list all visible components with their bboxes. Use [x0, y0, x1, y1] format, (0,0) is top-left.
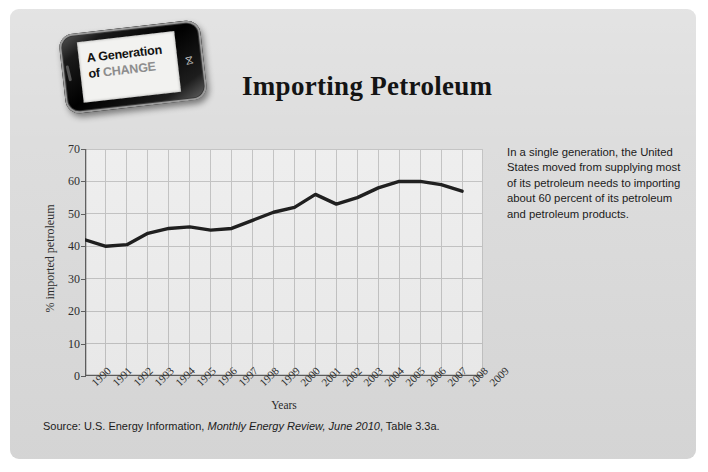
badge-line2-accent: CHANGE — [102, 59, 156, 79]
y-axis-tick-0: 0 — [38, 369, 80, 384]
x-axis-tick-2009: 2009 — [487, 364, 511, 388]
page-panel: A Generation of CHANGE ⧖ Importing Petro… — [10, 9, 696, 459]
y-axis-tick-60: 60 — [38, 174, 80, 189]
y-axis-tick-30: 30 — [38, 271, 80, 286]
badge-line2-prefix: of — [88, 65, 104, 81]
badge-text: A Generation of CHANGE — [77, 31, 179, 83]
source-suffix: , Table 3.3a. — [380, 420, 440, 432]
plot-svg — [85, 149, 483, 376]
chart: % imported petroleum 010203040506070 199… — [38, 141, 488, 431]
y-axis-tick-40: 40 — [38, 239, 80, 254]
phone-side-button-icon — [66, 65, 73, 81]
y-axis-tick-10: 10 — [38, 336, 80, 351]
phone-speaker-icon: ⧖ — [183, 52, 197, 67]
page-title: Importing Petroleum — [242, 71, 492, 102]
source-publication: Monthly Energy Review, June 2010 — [207, 420, 379, 432]
generation-of-change-badge: A Generation of CHANGE ⧖ — [62, 27, 207, 115]
y-axis-tick-labels: 010203040506070 — [38, 149, 80, 376]
y-axis-tick-50: 50 — [38, 206, 80, 221]
y-axis-tick-20: 20 — [38, 304, 80, 319]
y-axis-tickmark — [81, 376, 86, 377]
x-axis-title: Years — [85, 399, 483, 411]
plot-area — [85, 149, 483, 376]
caption-text: In a single generation, the United State… — [507, 145, 682, 222]
phone-screen: A Generation of CHANGE — [77, 31, 181, 103]
y-axis-tick-70: 70 — [38, 142, 80, 157]
phone-icon: A Generation of CHANGE ⧖ — [58, 19, 208, 115]
source-prefix: Source: U.S. Energy Information, — [43, 420, 207, 432]
source-note: Source: U.S. Energy Information, Monthly… — [43, 420, 440, 432]
